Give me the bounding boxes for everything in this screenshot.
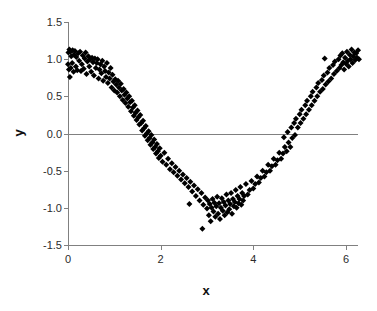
y-axis-title: y [11,129,26,136]
scatter-chart: 1.51.00.50.0-0.5-1.0-1.5 0246 x y [0,0,377,311]
x-tick-label: 2 [158,254,164,265]
x-tick-label: 6 [343,254,349,265]
y-tick-label: -0.5 [28,165,62,176]
y-tick-label: 0.5 [28,91,62,102]
y-tick-label: -1.0 [28,202,62,213]
data-point-series [65,47,362,232]
y-tick-label: 0.0 [28,128,62,139]
x-tick-label: 4 [250,254,256,265]
x-tick-label: 0 [65,254,71,265]
y-tick-label: 1.0 [28,54,62,65]
plot-area [0,0,377,311]
y-tick-label: 1.5 [28,17,62,28]
y-tick-label: -1.5 [28,240,62,251]
tick-marks [64,23,347,251]
x-axis-title: x [202,283,209,298]
